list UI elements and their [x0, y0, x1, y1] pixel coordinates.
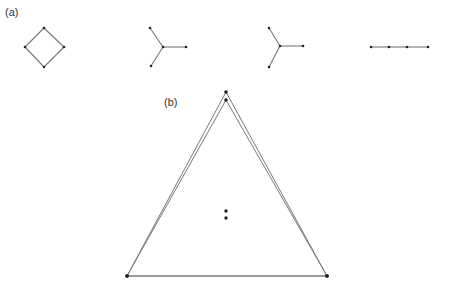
graph-node	[149, 27, 152, 30]
graph-node	[268, 66, 271, 69]
panel-a	[24, 27, 430, 69]
panel-b-label: (b)	[164, 96, 177, 108]
graph-node	[150, 65, 153, 68]
graph-node	[185, 46, 188, 49]
star-1-graph	[149, 27, 188, 68]
graph-edge	[25, 47, 44, 67]
graph-edge	[269, 46, 280, 67]
diagram-canvas: (a) (b)	[0, 0, 451, 291]
graph-node	[406, 46, 409, 49]
graph-edge	[44, 47, 64, 67]
graph-edge	[151, 47, 163, 66]
graph-node	[427, 46, 430, 49]
vertex-point	[224, 98, 228, 102]
graph-node	[268, 27, 271, 30]
panel-a-label: (a)	[5, 6, 18, 18]
star-2-graph	[268, 27, 305, 69]
graph-node	[279, 45, 282, 48]
graph-edge	[269, 28, 280, 46]
vertex-point	[325, 274, 329, 278]
graph-node	[302, 45, 305, 48]
graph-node	[43, 27, 46, 30]
graph-node	[43, 66, 46, 69]
vertex-point	[125, 274, 129, 278]
center-point	[224, 216, 227, 219]
inner-triangle	[127, 100, 327, 276]
graph-node	[162, 46, 165, 49]
center-point	[224, 209, 227, 212]
graph-edge	[44, 28, 64, 47]
graph-edge	[150, 28, 163, 47]
vertex-point	[224, 90, 228, 94]
graph-node	[24, 46, 27, 49]
graph-node	[388, 46, 391, 49]
path-graph	[370, 46, 430, 49]
graph-edge	[25, 28, 44, 47]
outer-triangle	[127, 92, 327, 276]
square-cycle-graph	[24, 27, 66, 69]
graph-node	[370, 46, 373, 49]
panel-b	[125, 90, 329, 278]
graph-node	[63, 46, 66, 49]
